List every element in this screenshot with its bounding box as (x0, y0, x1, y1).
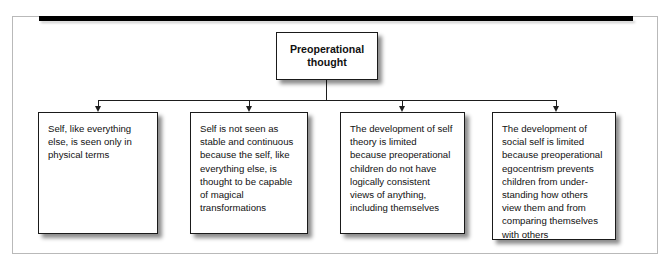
node-child-1: Self, like everything else, is seen only… (38, 112, 158, 234)
top-rule-divider (39, 16, 633, 21)
connector-root-stem (326, 80, 327, 100)
node-child-2-label: Self is not seen as stable and continuou… (200, 122, 298, 214)
node-child-2: Self is not seen as stable and continuou… (190, 112, 308, 234)
top-rule-shadow (41, 21, 635, 23)
node-child-4: The development of social self is limite… (492, 112, 616, 240)
node-child-4-label: The development of social self is limite… (502, 122, 606, 241)
node-child-3-label: The development of self theory is limite… (350, 122, 455, 214)
node-root-label: Preoperational thought (290, 43, 364, 69)
node-root-preoperational-thought: Preoperational thought (276, 32, 378, 80)
node-child-3: The development of self theory is limite… (340, 112, 465, 234)
figure-canvas: p g p Preoperational thought Self, like … (0, 0, 670, 276)
node-child-1-label: Self, like everything else, is seen only… (48, 122, 148, 162)
connector-horizontal-bus (98, 100, 556, 101)
